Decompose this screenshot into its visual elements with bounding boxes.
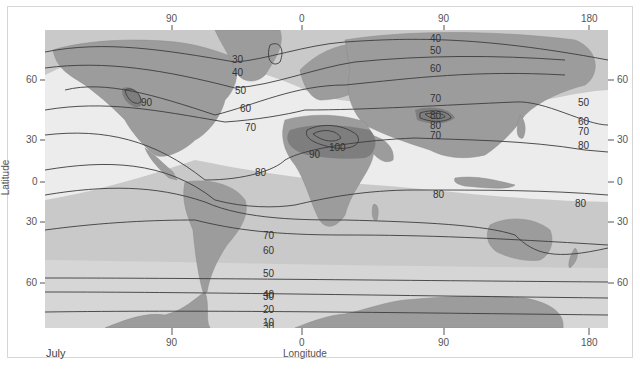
contour-label-10: 10 [263,317,275,328]
contour-label-20: 20 [263,304,275,315]
contour-label-30: 30 [263,291,275,302]
southern-labels-layer: 30 20 10 [45,30,608,328]
